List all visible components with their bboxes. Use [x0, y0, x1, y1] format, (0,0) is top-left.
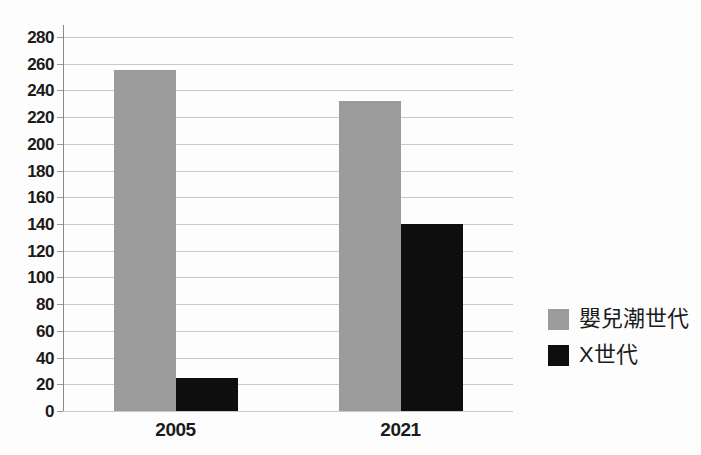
y-tick-label: 220: [0, 109, 54, 126]
legend-item: 嬰兒潮世代: [548, 308, 689, 330]
legend-label: 嬰兒潮世代: [579, 308, 689, 330]
y-tick-mark: [57, 358, 63, 359]
y-tick-mark: [57, 197, 63, 198]
gridline: [63, 64, 513, 65]
y-tick-label: 120: [0, 242, 54, 259]
y-tick-label: 280: [0, 29, 54, 46]
gridline: [63, 411, 513, 412]
y-tick-label: 80: [0, 296, 54, 313]
y-tick-mark: [57, 277, 63, 278]
y-tick-mark: [57, 384, 63, 385]
y-tick-label: 100: [0, 269, 54, 286]
legend-label: X世代: [579, 344, 638, 366]
y-tick-mark: [57, 171, 63, 172]
y-axis: [63, 25, 64, 411]
y-tick-mark: [57, 90, 63, 91]
y-tick-label: 0: [0, 403, 54, 420]
bar-2005-series2: [176, 378, 238, 411]
y-tick-mark: [57, 331, 63, 332]
legend-swatch-icon: [548, 345, 569, 366]
y-tick-mark: [57, 224, 63, 225]
y-tick-label: 200: [0, 135, 54, 152]
y-tick-mark: [57, 251, 63, 252]
y-tick-label: 60: [0, 322, 54, 339]
bar-2021-series2: [401, 224, 463, 411]
y-tick-label: 180: [0, 162, 54, 179]
y-tick-mark: [57, 144, 63, 145]
y-tick-label: 140: [0, 216, 54, 233]
legend-item: X世代: [548, 344, 689, 366]
y-tick-mark: [57, 304, 63, 305]
gridline: [63, 37, 513, 38]
bar-chart: 020406080100120140160180200220240260280 …: [0, 0, 701, 455]
legend: 嬰兒潮世代X世代: [548, 308, 689, 380]
y-tick-mark: [57, 37, 63, 38]
y-tick-label: 40: [0, 349, 54, 366]
bar-2005-series1: [114, 70, 176, 411]
y-tick-mark: [57, 411, 63, 412]
y-tick-label: 20: [0, 376, 54, 393]
x-axis-label: 2005: [116, 419, 236, 441]
y-tick-label: 260: [0, 55, 54, 72]
y-tick-mark: [57, 117, 63, 118]
y-tick-label: 240: [0, 82, 54, 99]
legend-swatch-icon: [548, 309, 569, 330]
y-tick-mark: [57, 64, 63, 65]
bar-2021-series1: [339, 101, 401, 411]
x-axis-label: 2021: [341, 419, 461, 441]
y-tick-label: 160: [0, 189, 54, 206]
plot-area: [63, 37, 513, 411]
